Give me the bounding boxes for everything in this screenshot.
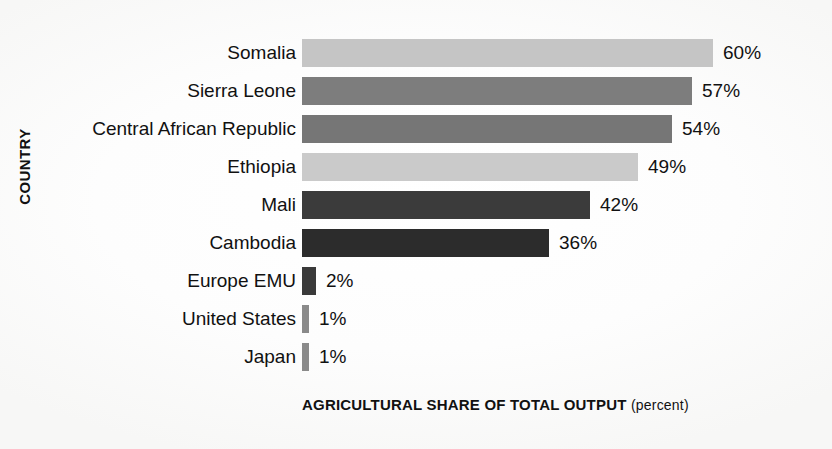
bar-value-label: 54% <box>682 114 720 144</box>
bar-value-label: 2% <box>326 266 353 296</box>
x-axis-title: AGRICULTURAL SHARE OF TOTAL OUTPUT (perc… <box>302 396 689 413</box>
bar <box>302 229 549 257</box>
category-label: Central African Republic <box>92 114 296 144</box>
bar-row: Mali42% <box>0 190 832 220</box>
bar <box>302 305 309 333</box>
bar-value-label: 49% <box>648 152 686 182</box>
bar-row: Europe EMU2% <box>0 266 832 296</box>
bar-fill <box>302 305 309 333</box>
bar <box>302 39 713 67</box>
bar-fill <box>302 267 316 295</box>
bar <box>302 153 638 181</box>
category-label: Somalia <box>227 38 296 68</box>
category-label: Mali <box>261 190 296 220</box>
bar-value-label: 1% <box>319 342 346 372</box>
bar-value-label: 1% <box>319 304 346 334</box>
bar <box>302 115 672 143</box>
bar-fill <box>302 191 590 219</box>
x-axis-unit-text: (percent) <box>631 397 689 413</box>
category-label: Cambodia <box>209 228 296 258</box>
bar-value-label: 42% <box>600 190 638 220</box>
category-label: Sierra Leone <box>187 76 296 106</box>
category-label: Europe EMU <box>187 266 296 296</box>
bar-fill <box>302 77 692 105</box>
bar-row: Ethiopia49% <box>0 152 832 182</box>
bar-row: United States1% <box>0 304 832 334</box>
bar <box>302 77 692 105</box>
category-label: Japan <box>244 342 296 372</box>
bar-fill <box>302 115 672 143</box>
bar-fill <box>302 229 549 257</box>
bar-value-label: 57% <box>702 76 740 106</box>
bar-row: Sierra Leone57% <box>0 76 832 106</box>
plot-area: Somalia60%Sierra Leone57%Central African… <box>0 30 832 385</box>
bar-row: Cambodia36% <box>0 228 832 258</box>
bar-row: Somalia60% <box>0 38 832 68</box>
bar-fill <box>302 153 638 181</box>
bar-fill <box>302 39 713 67</box>
bar-value-label: 60% <box>723 38 761 68</box>
bar <box>302 267 316 295</box>
bar-row: Japan1% <box>0 342 832 372</box>
bar-row: Central African Republic54% <box>0 114 832 144</box>
bar-chart: COUNTRY Somalia60%Sierra Leone57%Central… <box>0 0 832 449</box>
bar <box>302 343 309 371</box>
bar-fill <box>302 343 309 371</box>
bar <box>302 191 590 219</box>
bar-value-label: 36% <box>559 228 597 258</box>
category-label: United States <box>182 304 296 334</box>
category-label: Ethiopia <box>227 152 296 182</box>
x-axis-title-text: AGRICULTURAL SHARE OF TOTAL OUTPUT <box>302 396 627 413</box>
